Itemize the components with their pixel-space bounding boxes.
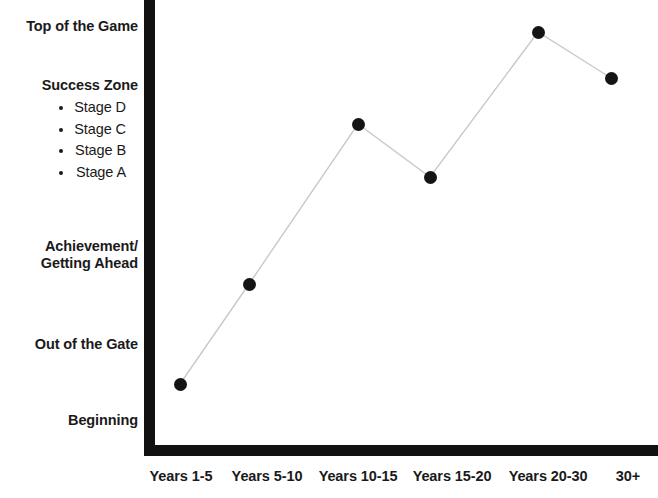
x-axis-label-30-plus: 30+ [616, 466, 640, 486]
x-axis-label-years-10-15: Years 10-15 [319, 466, 398, 486]
x-axis-label-years-1-5: Years 1-5 [150, 466, 213, 486]
data-point-30 [605, 72, 618, 85]
x-axis-label-group: Years 1-5 Years 5-10 Years 10-15 Years 1… [0, 466, 658, 498]
x-axis-label-years-5-10: Years 5-10 [232, 466, 303, 486]
career-progression-chart: Top of the Game Success Zone Stage D Sta… [0, 0, 658, 498]
x-axis-label-years-15-20: Years 15-20 [413, 466, 492, 486]
data-point-years-1-5 [174, 378, 187, 391]
data-point-years-15-20 [424, 171, 437, 184]
series-line [180, 32, 611, 384]
data-point-years-5-10 [243, 278, 256, 291]
series-line-svg [0, 0, 658, 456]
data-point-years-20-30 [532, 26, 545, 39]
x-axis-label-years-20-30: Years 20-30 [509, 466, 588, 486]
data-point-years-10-15 [352, 118, 365, 131]
plot-area [0, 0, 658, 456]
